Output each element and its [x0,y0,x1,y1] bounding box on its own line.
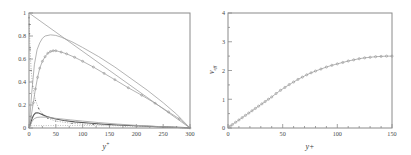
x-axis-label-superscript: + [106,141,110,147]
x-tick-label: 300 [185,130,194,137]
y-tick-label: 0 [222,124,225,131]
right-plot-svg: 0 50 100 150 0 1 2 3 [205,0,411,155]
series-total-stress [29,13,190,128]
svg-text:veff: veff [207,65,217,74]
y-tick-label: 0.2 [18,101,26,108]
right-y-axis-label: veff [207,65,217,74]
y-tick-label: 1 [222,96,225,103]
y-axis-ticks [228,13,232,128]
x-tick-label: 50 [53,130,59,137]
chart-panel-right: 0 50 100 150 0 1 2 3 [205,0,411,155]
chart-panel-left: 0 50 100 150 200 250 300 [0,0,206,155]
x-axis-ticks [228,124,392,128]
right-x-axis-label: y+ [305,142,315,151]
reynolds-model-markers [30,50,191,129]
series-reynolds-stress-upper [29,35,190,128]
x-tick-label: 0 [226,130,229,137]
x-tick-label: 150 [387,130,396,137]
x-tick-label: 100 [333,130,342,137]
x-tick-label: 100 [78,130,87,137]
x-axis-tick-labels: 0 50 100 150 200 250 300 [27,130,194,137]
y-axis-tick-labels: 0 0.2 0.4 0.6 0.8 1 [18,9,26,131]
y-tick-label: 0.4 [18,78,26,85]
left-plot-svg: 0 50 100 150 200 250 300 [0,0,206,155]
y-axis-tick-labels: 0 1 2 3 4 [222,9,225,131]
y-tick-label: 0.8 [18,32,26,39]
x-tick-label: 150 [105,130,114,137]
y-tick-label: 4 [222,9,225,16]
svg-text:y+: y+ [101,141,110,151]
y-tick-label: 3 [222,38,225,45]
figure-container: 0 50 100 150 200 250 300 [0,0,411,155]
y-tick-label: 0 [23,124,26,131]
series-reynolds-stress-model [29,50,191,129]
x-axis-tick-labels: 0 50 100 150 [226,130,396,137]
series-effective-viscosity [228,55,393,128]
x-tick-label: 200 [132,130,141,137]
x-tick-label: 0 [27,130,30,137]
left-x-axis-label: y+ [101,141,110,151]
y-tick-label: 2 [222,67,225,74]
y-tick-label: 1 [23,9,26,16]
x-tick-label: 250 [159,130,168,137]
x-tick-label: 50 [280,130,286,137]
viscous-stress-markers [28,17,190,129]
effective-viscosity-markers [229,55,393,127]
y-tick-label: 0.6 [18,55,26,62]
y-axis-label-subscript: eff [212,65,217,70]
